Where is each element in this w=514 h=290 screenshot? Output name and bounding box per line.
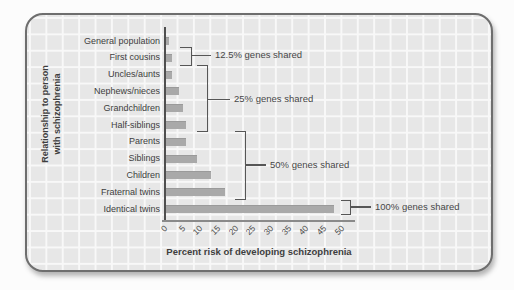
x-tick-label: 15 bbox=[200, 223, 223, 246]
x-axis-line bbox=[162, 220, 355, 222]
x-tick-label: 5 bbox=[164, 223, 187, 246]
bar-parents bbox=[165, 138, 186, 146]
x-tick-label: 25 bbox=[235, 223, 258, 246]
bracket-50-percent bbox=[235, 131, 246, 200]
category-label: Siblings bbox=[55, 152, 160, 164]
x-tick-label: 10 bbox=[182, 223, 205, 246]
bracket-connector-50 bbox=[246, 164, 266, 166]
y-axis-line bbox=[164, 27, 166, 221]
bracket-connector-25 bbox=[208, 99, 230, 101]
annotation-50-percent: 50% genes shared bbox=[270, 159, 349, 171]
bracket-connector-12-5 bbox=[192, 55, 211, 57]
x-tick-label: 40 bbox=[288, 223, 311, 246]
y-axis-label-line1: Relationship to person bbox=[39, 54, 51, 174]
category-label: Fraternal twins bbox=[55, 186, 160, 198]
x-tick-label: 50 bbox=[323, 223, 346, 246]
bar-identical-twins bbox=[165, 205, 334, 213]
category-label: First cousins bbox=[55, 51, 160, 63]
bracket-connector-100 bbox=[351, 206, 371, 208]
bar-grandchildren bbox=[165, 104, 183, 112]
bracket-25-percent bbox=[197, 65, 208, 132]
annotation-100-percent: 100% genes shared bbox=[375, 201, 460, 213]
bar-siblings bbox=[165, 155, 197, 163]
bar-children bbox=[165, 171, 211, 179]
x-tick-label: 0 bbox=[147, 223, 170, 246]
bar-uncles-aunts bbox=[165, 71, 172, 79]
bar-half-siblings bbox=[165, 121, 186, 129]
category-label: Nephews/nieces bbox=[55, 85, 160, 97]
category-label: Parents bbox=[55, 135, 160, 147]
x-axis-title: Percent risk of developing schizophrenia bbox=[139, 246, 379, 257]
bracket-100-percent bbox=[341, 200, 351, 215]
category-label: Uncles/aunts bbox=[55, 68, 160, 80]
bar-first-cousins bbox=[165, 54, 172, 62]
chart-card: Relationship to person with schizophreni… bbox=[25, 13, 493, 272]
bar-nephews-nieces bbox=[165, 87, 179, 95]
bracket-12-5-percent bbox=[180, 47, 192, 66]
x-tick-label: 20 bbox=[217, 223, 240, 246]
x-tick-label: 30 bbox=[253, 223, 276, 246]
bar-fraternal-twins bbox=[165, 188, 225, 196]
category-label: Grandchildren bbox=[55, 102, 160, 114]
category-label: Identical twins bbox=[55, 203, 160, 215]
annotation-12-5-percent: 12.5% genes shared bbox=[215, 49, 302, 61]
x-tick-label: 45 bbox=[306, 223, 329, 246]
category-label: Children bbox=[55, 169, 160, 181]
category-label: General population bbox=[55, 35, 160, 47]
annotation-25-percent: 25% genes shared bbox=[234, 93, 313, 105]
category-label: Half-siblings bbox=[55, 119, 160, 131]
x-tick-label: 35 bbox=[270, 223, 293, 246]
